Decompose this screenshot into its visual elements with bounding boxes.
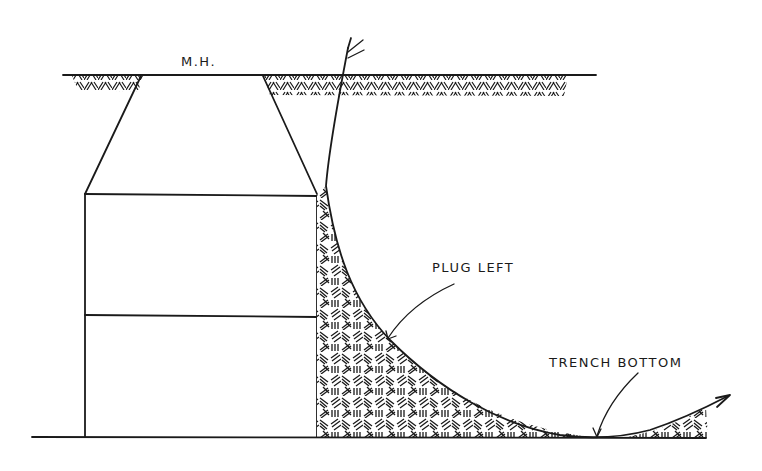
- plug-left-arrow-icon: [386, 331, 396, 339]
- manhole-barrel: [85, 194, 317, 437]
- plug-left-leader: [388, 284, 454, 338]
- trench-bottom-leader: [597, 373, 638, 436]
- trench-base-line: [32, 437, 706, 438]
- manhole-label: M.H.: [181, 54, 216, 69]
- trench-bottom-label: TRENCH BOTTOM: [548, 355, 682, 370]
- plug-left-label: PLUG LEFT: [432, 260, 514, 275]
- soil-hatch-left: [72, 76, 143, 92]
- trench-manhole-diagram: M.H. PLUG LEFT TRENCH BOTTOM: [0, 0, 762, 471]
- arrow-head-top-icon: [348, 38, 364, 58]
- ground-surface: [63, 75, 596, 96]
- soil-hatch-right: [264, 76, 568, 96]
- soil-plug: [317, 186, 590, 437]
